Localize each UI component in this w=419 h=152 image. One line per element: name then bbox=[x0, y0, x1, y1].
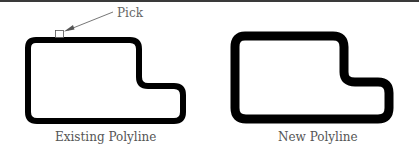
new-polyline bbox=[235, 36, 389, 119]
new-polyline-caption: New Polyline bbox=[278, 130, 358, 144]
pick-label: Pick bbox=[117, 6, 143, 20]
pick-arrow-line bbox=[68, 12, 113, 30]
existing-polyline bbox=[28, 40, 183, 121]
arrowhead-icon bbox=[64, 25, 75, 32]
pick-box bbox=[56, 31, 64, 38]
existing-polyline-caption: Existing Polyline bbox=[55, 130, 156, 144]
